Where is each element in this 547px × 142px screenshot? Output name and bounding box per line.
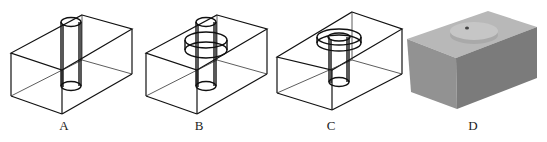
label-c: C [321, 118, 341, 134]
panel-b-wireframe [146, 15, 267, 114]
panel-c-wireframe [277, 12, 402, 110]
panel-d-solid [407, 11, 537, 109]
label-b: B [189, 118, 209, 134]
label-a: A [54, 118, 74, 134]
label-d: D [463, 118, 483, 134]
panel-a-wireframe [11, 15, 132, 114]
